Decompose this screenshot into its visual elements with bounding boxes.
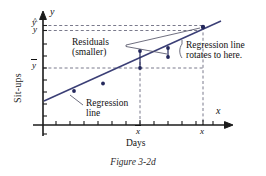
data-point [166,55,170,59]
tick-label-y-bar: y [32,61,36,70]
tick-label-y-hat: y [33,25,37,34]
annotation-rotates-line2: rotates to here. [186,51,245,61]
x-axis-name: Days [126,139,146,149]
y-axis-name: Sit-ups [12,73,23,103]
annotation-rotates-to-here: Regression line rotates to here. [186,41,245,61]
data-point [201,25,205,29]
data-point [138,66,142,70]
data-point [166,46,170,50]
regression-line [44,21,221,101]
tick-label-x-bar-text: x [136,127,140,136]
y-axis-variable-letter: y [50,7,54,18]
scatter-plot-figure [0,0,266,176]
data-point [72,89,76,93]
leader-regression-line [70,95,83,105]
annotation-regression-line2: line [86,109,128,119]
annotation-regression-line: Regression line [86,99,128,119]
data-point [101,82,105,86]
annotation-residuals: Residuals (smaller) [72,38,109,58]
tick-label-x-bar: x [136,127,140,136]
leader-rotates-to-here [180,44,182,58]
figure-caption: Figure 3-2d [0,157,266,167]
x-axis-variable-letter: x [216,106,220,117]
y-axis-arrowhead [40,11,47,20]
tick-label-y-hat-text: y [33,25,37,34]
tick-label-y-bar-text: y [32,61,36,70]
x-axis-arrowhead [225,122,234,129]
annotation-residuals-line2: (smaller) [72,48,109,58]
tick-label-x-right: x [200,127,204,136]
